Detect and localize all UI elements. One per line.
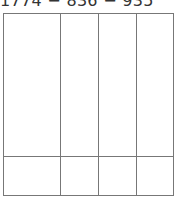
row-divider <box>4 156 173 157</box>
column-divider-2 <box>98 14 99 195</box>
column-divider-3 <box>136 14 137 195</box>
subtraction-expression: 1774 − 836 − 935 <box>0 0 154 10</box>
column-divider-1 <box>60 14 61 195</box>
place-value-grid <box>3 13 174 196</box>
